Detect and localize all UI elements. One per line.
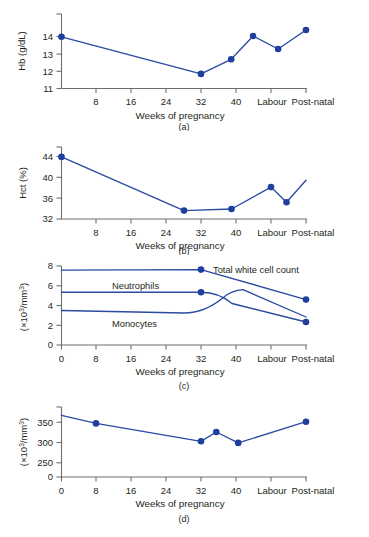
chart-a-xlabel: Weeks of pregnancy: [135, 110, 224, 121]
xtick-label: 24: [161, 485, 172, 496]
data-point: [228, 56, 235, 63]
data-point: [303, 319, 310, 326]
ylabel-prefix: (×10: [18, 447, 29, 466]
data-point: [275, 46, 282, 53]
ytick-label: 13: [42, 49, 53, 60]
xtick-label: Post-natal: [292, 485, 335, 496]
chart-a-axes: [57, 14, 308, 93]
xtick-label: 16: [126, 353, 137, 364]
chart-b-caption: (b): [179, 246, 190, 255]
chart-c-xlabel: Weeks of pregnancy: [135, 366, 224, 377]
chart-c-axes: [57, 266, 308, 350]
chart-c-series-neutrophils: [62, 289, 310, 325]
xtick-label: 16: [126, 485, 137, 496]
figure-page: 14 13 12 11 8 16 24 32 40 Labour Post-na…: [0, 0, 369, 537]
chart-b-ylabel: Hct (%): [17, 167, 28, 199]
ytick-label: 250: [37, 457, 53, 468]
data-point: [198, 289, 205, 296]
data-point: [235, 440, 242, 447]
data-point: [198, 266, 205, 273]
chart-panel-c: 8 6 4 2 0 0 8 16 24 32 40 Labour Post-na…: [0, 255, 369, 395]
chart-d-axes: [57, 407, 308, 482]
chart-d-xtick-labels: 0 8 16 24 32 40 Labour Post-natal: [59, 485, 335, 496]
data-point: [93, 420, 100, 427]
ytick-label: 300: [37, 437, 53, 448]
xtick-label: 32: [196, 485, 207, 496]
chart-a-caption: (a): [179, 122, 190, 131]
xtick-label: 40: [231, 96, 242, 107]
xtick-label: Labour: [257, 485, 287, 496]
ytick-label: 6: [48, 280, 53, 291]
ytick-label: 32: [42, 213, 53, 224]
xtick-label: 8: [93, 227, 98, 238]
xtick-label: Post-natal: [292, 353, 335, 364]
ytick-label: 36: [42, 193, 53, 204]
chart-b-svg: 44 40 36 32 8 16 24 32 40 Labour Post-na…: [0, 131, 369, 255]
xtick-label: 0: [59, 485, 64, 496]
chart-c-label-total-white-cell-count: Total white cell count: [213, 265, 299, 275]
ytick-label: 11: [43, 83, 53, 94]
chart-panel-d: 350 300 250 0 0 8 16 24 32 40 Labour Pos…: [0, 395, 369, 537]
ylabel-suffix: ): [18, 418, 29, 421]
xtick-label: 8: [93, 485, 98, 496]
chart-c-label-monocytes: Monocytes: [112, 319, 157, 329]
ytick-label: 2: [48, 320, 53, 331]
data-point: [58, 34, 65, 41]
chart-a-xtick-labels: 8 16 24 32 40 Labour Post-natal: [93, 96, 334, 107]
chart-a-series: [58, 27, 309, 77]
chart-b-series: [58, 154, 306, 214]
ytick-label: 40: [42, 172, 53, 183]
ytick-label: 4: [48, 300, 53, 311]
chart-c-caption: (c): [179, 381, 190, 391]
xtick-label: 40: [231, 227, 242, 238]
xtick-label: 8: [93, 96, 98, 107]
data-point: [268, 184, 275, 191]
xtick-label: Labour: [257, 353, 287, 364]
chart-d-caption: (d): [179, 514, 190, 524]
ytick-label: 8: [48, 260, 53, 271]
chart-d-svg: 350 300 250 0 0 8 16 24 32 40 Labour Pos…: [0, 395, 369, 537]
chart-d-xlabel: Weeks of pregnancy: [135, 498, 224, 509]
data-point: [181, 207, 188, 214]
xtick-label: 40: [231, 353, 242, 364]
chart-panel-b: 44 40 36 32 8 16 24 32 40 Labour Post-na…: [0, 131, 369, 255]
chart-a-svg: 14 13 12 11 8 16 24 32 40 Labour Post-na…: [0, 0, 369, 131]
xtick-label: 0: [59, 353, 64, 364]
ytick-label: 0: [48, 339, 53, 350]
xtick-label: Labour: [257, 227, 287, 238]
data-point: [303, 27, 310, 34]
chart-b-xtick-labels: 8 16 24 32 40 Labour Post-natal: [93, 227, 334, 238]
xtick-label: 32: [196, 96, 207, 107]
xtick-label: 32: [196, 227, 207, 238]
ytick-label: 44: [42, 151, 53, 162]
chart-d-series: [62, 415, 310, 446]
xtick-label: 40: [231, 485, 242, 496]
xtick-label: 16: [126, 96, 137, 107]
ylabel-middle: /mm: [18, 425, 29, 444]
chart-c-ytick-labels: 8 6 4 2 0: [48, 260, 53, 350]
chart-d-ylabel: (×103/mm3): [18, 418, 29, 466]
data-point: [198, 71, 205, 78]
chart-c-svg: 8 6 4 2 0 0 8 16 24 32 40 Labour Post-na…: [0, 255, 369, 395]
xtick-label: 24: [161, 227, 172, 238]
xtick-label: 24: [161, 353, 172, 364]
xtick-label: 16: [126, 227, 137, 238]
xtick-label: Post-natal: [292, 227, 335, 238]
data-point: [303, 296, 310, 303]
xtick-label: Labour: [257, 96, 287, 107]
data-point: [213, 429, 220, 436]
chart-panel-a: 14 13 12 11 8 16 24 32 40 Labour Post-na…: [0, 0, 369, 131]
data-point: [303, 418, 310, 425]
chart-a-ytick-labels: 14 13 12 11: [42, 31, 53, 94]
ylabel-suffix: ): [18, 283, 29, 286]
data-point: [283, 199, 290, 206]
chart-d-ytick-labels: 350 300 250 0: [37, 417, 53, 483]
data-point: [250, 33, 257, 40]
chart-c-xtick-labels: 0 8 16 24 32 40 Labour Post-natal: [59, 353, 335, 364]
data-point: [198, 438, 205, 445]
xtick-label: 8: [93, 353, 98, 364]
chart-c-label-neutrophils: Neutrophils: [112, 281, 159, 291]
chart-b-ytick-labels: 44 40 36 32: [42, 151, 53, 225]
xtick-label: 32: [196, 353, 207, 364]
ytick-label: 350: [37, 417, 53, 428]
